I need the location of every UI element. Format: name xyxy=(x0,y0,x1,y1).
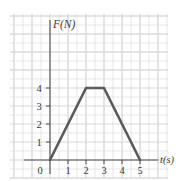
x-axis-label: t(s) xyxy=(160,154,175,166)
origin-label: 0 xyxy=(37,165,42,176)
chart-svg: 0 1 2 3 4 5 1 2 3 4 F(N) t(s) xyxy=(0,0,179,181)
y-tick-label-2: 2 xyxy=(36,119,41,130)
y-axis-label: F(N) xyxy=(52,18,76,31)
x-tick-label-3: 3 xyxy=(101,165,106,176)
y-tick-label-1: 1 xyxy=(36,137,41,148)
x-tick-label-4: 4 xyxy=(119,165,125,176)
x-tick-label-1: 1 xyxy=(65,165,70,176)
x-tick-label-2: 2 xyxy=(83,165,88,176)
chart-grid xyxy=(10,14,168,178)
x-tick-label-5: 5 xyxy=(137,165,142,176)
y-tick-label-4: 4 xyxy=(36,83,42,94)
y-tick-label-3: 3 xyxy=(36,101,41,112)
force-time-chart: 0 1 2 3 4 5 1 2 3 4 F(N) t(s) xyxy=(0,0,179,181)
plot-background xyxy=(10,14,168,178)
